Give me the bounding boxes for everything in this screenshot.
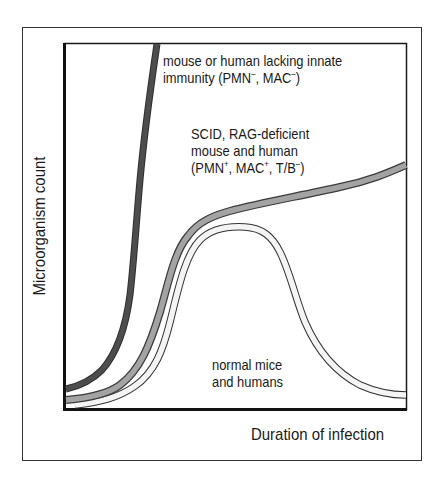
scid-label-line3: (PMN+, MAC+, T/B–) bbox=[191, 159, 309, 176]
innate-deficient-label: mouse or human lacking innate immunity (… bbox=[163, 52, 342, 86]
text: ) bbox=[296, 69, 300, 86]
normal-label-line2: and humans bbox=[212, 373, 283, 390]
text: (PMN bbox=[191, 159, 224, 176]
innate-label-line2: immunity (PMN–, MAC–) bbox=[163, 69, 342, 86]
innate-deficient-curve bbox=[66, 44, 157, 389]
text: ) bbox=[300, 159, 304, 176]
innate-label-line1: mouse or human lacking innate bbox=[163, 52, 342, 69]
scid-label-line2: mouse and human bbox=[191, 142, 309, 159]
text: immunity (PMN bbox=[163, 69, 251, 86]
scid-label: SCID, RAG-deficient mouse and human (PMN… bbox=[191, 125, 309, 176]
normal-label-line1: normal mice bbox=[212, 356, 283, 373]
text: , MAC bbox=[255, 69, 291, 86]
x-axis-label: Duration of infection bbox=[251, 425, 384, 445]
normal-label: normal mice and humans bbox=[212, 356, 283, 390]
y-axis-label: Microorganism count bbox=[30, 157, 50, 296]
scid-label-line1: SCID, RAG-deficient bbox=[191, 125, 309, 142]
text: , MAC bbox=[228, 159, 264, 176]
text: , T/B bbox=[269, 159, 296, 176]
